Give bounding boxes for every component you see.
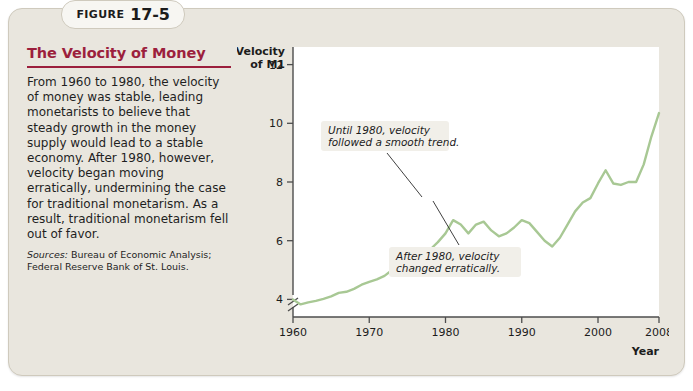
sources-note: Sources: Bureau of Economic Analysis; Fe…	[27, 249, 231, 273]
x-tick-label: 2000	[584, 326, 612, 339]
figure-panel: FIGURE 17-5 The Velocity of Money From 1…	[8, 8, 685, 376]
x-tick-label: 1980	[432, 326, 460, 339]
annotation-erratic-line2: changed erratically.	[396, 262, 500, 274]
y-tick-label: 6	[276, 235, 283, 248]
x-tick-label: 1970	[355, 326, 383, 339]
sources-label: Sources:	[27, 249, 68, 260]
x-axis-ticks: 196019701980199020002008	[279, 317, 669, 339]
y-axis-title-line1: Velocity	[237, 45, 285, 58]
x-tick-label: 2008	[645, 326, 669, 339]
figure-number-tab: FIGURE 17-5	[61, 0, 185, 29]
y-tick-label: 8	[276, 176, 283, 189]
y-tick-label: 10	[269, 117, 283, 130]
y-tick-label: 4	[276, 293, 283, 306]
caption-text: From 1960 to 1980, the velocity of money…	[27, 75, 231, 242]
x-tick-label: 1960	[279, 326, 307, 339]
x-axis-title: Year	[631, 345, 660, 358]
title-rule	[27, 66, 231, 68]
caption-column: The Velocity of Money From 1960 to 1980,…	[27, 45, 239, 273]
figure-title: The Velocity of Money	[27, 45, 239, 61]
chart-area: Velocity of M1 4681012 19601970198019902…	[237, 25, 669, 361]
velocity-line-chart: Velocity of M1 4681012 19601970198019902…	[237, 25, 669, 361]
annotation-erratic-line1: After 1980, velocity	[395, 250, 500, 262]
y-axis-ticks: 4681012	[269, 59, 293, 307]
annotation-smooth-trend-line2: followed a smooth trend.	[328, 136, 459, 148]
figure-number: 17-5	[130, 5, 169, 24]
figure-kicker: FIGURE	[76, 8, 124, 21]
x-tick-label: 1990	[508, 326, 536, 339]
annotation-smooth-trend-line1: Until 1980, velocity	[328, 124, 431, 136]
y-tick-label: 12	[269, 59, 283, 72]
